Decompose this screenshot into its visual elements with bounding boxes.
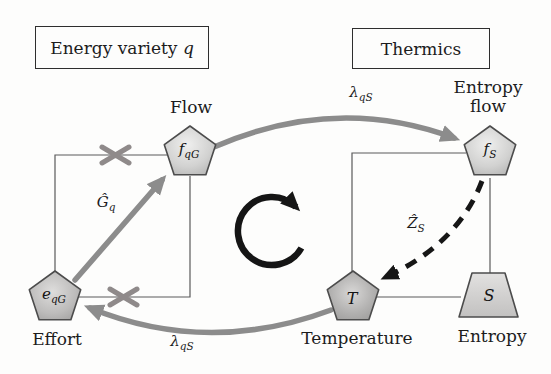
coupling-arrow-top xyxy=(214,118,454,147)
thermics-label: Thermics xyxy=(381,39,461,59)
temperature-node-symbol: T xyxy=(347,289,358,308)
effort-node-symbol: eqG xyxy=(42,285,66,309)
entropy-flow-node-symbol: fS xyxy=(484,140,497,164)
impedance-dashed-arrow xyxy=(386,181,482,277)
flow-caption: Flow xyxy=(170,98,212,117)
flow-node-symbol: fqG xyxy=(179,140,200,164)
coupling-arrow-bottom xyxy=(90,308,331,333)
wire-effort-to-flow-bottom-loop xyxy=(77,176,190,297)
clockwise-loop-icon xyxy=(238,197,301,265)
coupling-top-label: λqS xyxy=(349,83,372,107)
temperature-caption: Temperature xyxy=(301,329,412,348)
formal-graph-diagram: Energy variety q Thermics Flow Entropy f… xyxy=(0,0,551,374)
thermics-box: Thermics xyxy=(352,28,490,69)
conductance-label: Ĝq xyxy=(97,193,116,217)
wire-temperature-to-entropyflow-loop xyxy=(352,153,466,271)
entropy-caption: Entropy xyxy=(457,327,526,346)
entropy-node-symbol: S xyxy=(484,286,495,305)
effort-caption: Effort xyxy=(32,330,82,349)
energy-variety-label: Energy variety q xyxy=(50,38,194,58)
coupling-bottom-label: λqS xyxy=(170,332,193,356)
entropy-flow-caption: Entropy flow xyxy=(453,78,522,116)
conductance-arrow xyxy=(75,180,162,280)
impedance-label: ẐS xyxy=(407,214,425,238)
energy-variety-box: Energy variety q xyxy=(35,26,209,69)
